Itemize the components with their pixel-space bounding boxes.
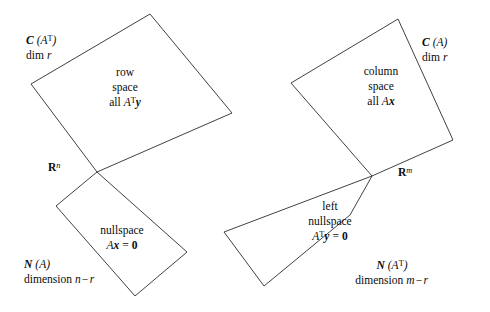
row-space-inner-line2: space xyxy=(109,80,141,95)
column-space-symbol: C xyxy=(422,36,430,48)
nullspace-dim-line: dimensionn−r xyxy=(24,272,95,287)
row-space-symbol: C xyxy=(26,34,34,46)
nullspace-inner-line2: Ax=0 xyxy=(100,238,143,253)
row-space-dim-var: r xyxy=(47,49,51,61)
nullspace-dim-word: dimension xyxy=(24,273,72,285)
column-space-dim-line: dimr xyxy=(422,50,447,65)
row-space-inner-label: row space allATy xyxy=(109,65,141,111)
column-space-name-line: C(A) xyxy=(422,35,447,50)
nullspace-name-line: N(A) xyxy=(24,257,95,272)
column-space-dim-word: dim xyxy=(422,51,440,63)
row-space-arg-close: ) xyxy=(53,34,57,46)
left-nullspace-dim-line: dimensionm−r xyxy=(355,273,428,288)
left-nullspace-vector-y: y xyxy=(324,230,329,242)
left-nullspace-arg-open: (A xyxy=(388,259,399,271)
left-nullspace-inner-label: left nullspace ATy=0 xyxy=(308,199,351,245)
column-space-all-word: all xyxy=(367,95,379,107)
left-nullspace-dim-expr: m−r xyxy=(406,274,428,286)
column-space-outer-label: C(A) dimr xyxy=(422,35,447,65)
row-space-matrix-a: A xyxy=(124,96,131,108)
left-nullspace-symbol: N xyxy=(376,259,384,271)
left-nullspace-equals: = xyxy=(332,230,339,242)
nullspace-outer-label: N(A) dimensionn−r xyxy=(24,257,95,287)
row-space-dim-line: dimr xyxy=(26,48,56,63)
left-nullspace-inner-line3: ATy=0 xyxy=(308,229,351,244)
row-space-outer-label: C(AT) dimr xyxy=(26,33,56,63)
left-nullspace-name-line: N(AT) xyxy=(355,258,428,273)
row-space-inner-line1: row xyxy=(109,65,141,80)
nullspace-inner-label: nullspace Ax=0 xyxy=(100,223,143,253)
four-subspaces-figure: C(AT) dimr row space allATy Rn nullspace… xyxy=(0,0,490,312)
nullspace-dim-expr: n−r xyxy=(75,273,95,285)
nullspace-symbol: N xyxy=(24,258,32,270)
left-nullspace-arg-close: ) xyxy=(404,259,408,271)
row-space-dim-word: dim xyxy=(26,49,44,61)
rn-superscript: n xyxy=(56,161,60,170)
nullspace-vector-x: x xyxy=(114,239,120,251)
left-nullspace-outer-label: N(AT) dimensionm−r xyxy=(355,258,428,288)
column-space-inner-label: column space allAx xyxy=(364,64,399,110)
nullspace-zero: 0 xyxy=(132,239,138,251)
rm-superscript: m xyxy=(406,166,412,175)
rm-domain-label: Rm xyxy=(398,165,412,180)
row-space-vector-y: y xyxy=(136,96,141,108)
row-space-inner-line3: allATy xyxy=(109,95,141,110)
column-space-inner-line3: allAx xyxy=(364,94,399,109)
column-space-inner-line1: column xyxy=(364,64,399,79)
nullspace-equals: = xyxy=(122,239,129,251)
column-space-vector-x: x xyxy=(389,95,395,107)
nullspace-inner-line1: nullspace xyxy=(100,223,143,238)
column-space-arg: (A) xyxy=(433,36,448,48)
column-space-dim-var: r xyxy=(443,51,447,63)
row-space-arg-open: (A xyxy=(37,34,48,46)
left-nullspace-zero: 0 xyxy=(342,230,348,242)
rn-domain-label: Rn xyxy=(48,160,60,175)
left-nullspace-inner-line2: nullspace xyxy=(308,214,351,229)
row-space-all-word: all xyxy=(109,96,121,108)
row-space-name-line: C(AT) xyxy=(26,33,56,48)
left-nullspace-matrix-a: A xyxy=(312,230,319,242)
left-nullspace-inner-line1: left xyxy=(308,199,351,214)
left-nullspace-dim-word: dimension xyxy=(355,274,403,286)
column-space-inner-line2: space xyxy=(364,79,399,94)
nullspace-arg: (A) xyxy=(35,258,50,270)
